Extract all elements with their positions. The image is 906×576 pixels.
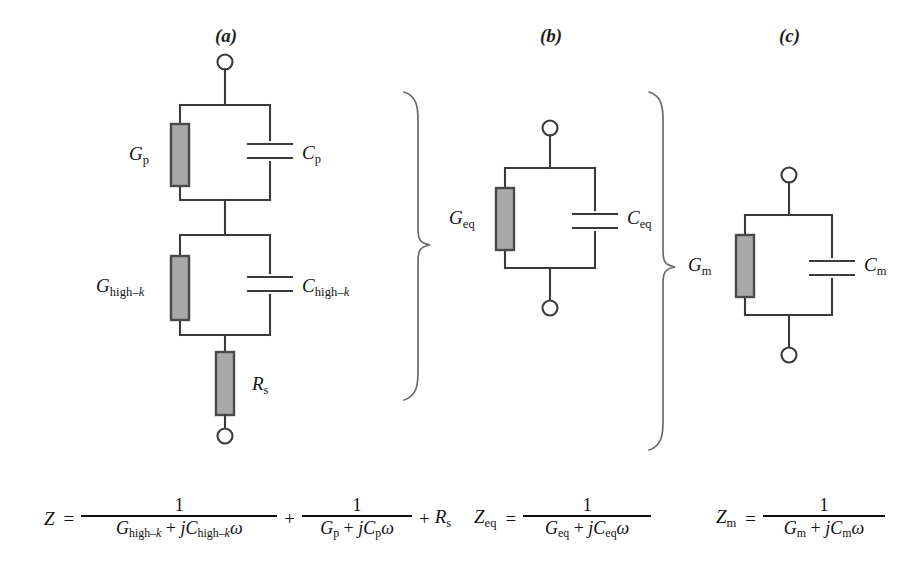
label-ghighk: Ghigh–k (96, 276, 144, 298)
circuit-b-bottom-terminal (543, 268, 558, 316)
label-chighk: Chigh–k (302, 276, 349, 298)
fraction-highk: 1 Ghigh–k + jChigh–kω (81, 496, 277, 540)
label-gm: Gm (688, 255, 712, 277)
equation-impedance-eq: Zeq = 1 Geq + jCeqω (474, 496, 653, 540)
circuit-a-top-terminal (218, 55, 233, 106)
label-cm: Cm (864, 255, 887, 277)
circuit-a-block-highk (180, 235, 292, 335)
label-ceq: Ceq (627, 208, 652, 230)
circuit-b-top-terminal (543, 121, 558, 169)
resistor-gp (171, 124, 189, 186)
panel-label-b: (b) (540, 25, 562, 47)
brace-a-to-b-icon (404, 92, 430, 400)
panel-label-c: (c) (779, 25, 800, 47)
label-cp: Cp (302, 143, 321, 165)
fraction-p: 1 Gp + jCpω (302, 496, 412, 540)
circuit-b-block-eq (505, 168, 617, 268)
resistor-gm (736, 235, 754, 297)
panel-label-a: (a) (215, 25, 237, 47)
label-gp: Gp (129, 144, 149, 166)
fraction-eq: 1 Geq + jCeqω (523, 496, 651, 540)
circuit-a-block-p (180, 105, 292, 200)
circuit-c-bottom-terminal (782, 315, 797, 363)
equation-impedance-m: Zm = 1 Gm + jCmω (716, 496, 887, 540)
circuit-c-top-terminal (782, 168, 797, 216)
circuit-a-series-rs (216, 335, 234, 444)
resistor-geq (496, 188, 514, 250)
circuit-c-block-m (745, 215, 854, 315)
label-geq: Geq (449, 208, 475, 230)
fraction-m: 1 Gm + jCmω (763, 496, 885, 540)
resistor-ghighk (171, 256, 189, 320)
figure-canvas: (a) (b) (c) Gp Cp Ghigh–k Chigh–k Rs Geq… (0, 0, 906, 576)
equation-impedance-total: Z = 1 Ghigh–k + jChigh–kω + 1 Gp + jCpω … (44, 496, 451, 540)
label-rs: Rs (252, 374, 269, 396)
brace-b-to-c-icon (649, 92, 675, 450)
